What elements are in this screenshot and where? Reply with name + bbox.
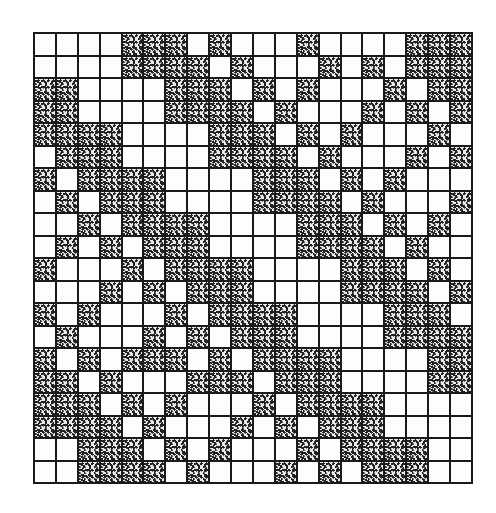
empty-cell <box>407 372 427 393</box>
empty-cell <box>451 237 471 258</box>
empty-cell <box>144 259 164 280</box>
empty-cell <box>451 304 471 325</box>
stippled-cell <box>385 282 405 303</box>
empty-cell <box>363 147 383 168</box>
stippled-cell <box>342 237 362 258</box>
stippled-cell <box>451 57 471 78</box>
empty-cell <box>451 214 471 235</box>
stippled-cell <box>144 237 164 258</box>
empty-cell <box>57 259 77 280</box>
empty-cell <box>254 462 274 483</box>
stippled-cell <box>429 214 449 235</box>
stippled-cell <box>363 237 383 258</box>
empty-cell <box>298 327 318 348</box>
stippled-cell <box>210 147 230 168</box>
stippled-cell <box>232 259 252 280</box>
stippled-cell <box>144 417 164 438</box>
empty-cell <box>57 439 77 460</box>
empty-cell <box>407 417 427 438</box>
empty-cell <box>79 57 99 78</box>
empty-cell <box>188 439 208 460</box>
stippled-cell <box>451 282 471 303</box>
stippled-cell <box>166 259 186 280</box>
stippled-cell <box>429 259 449 280</box>
stippled-cell <box>254 327 274 348</box>
stippled-cell <box>276 417 296 438</box>
stippled-cell <box>210 79 230 100</box>
empty-cell <box>298 147 318 168</box>
stippled-cell <box>166 237 186 258</box>
stippled-cell <box>79 147 99 168</box>
empty-cell <box>320 79 340 100</box>
empty-cell <box>342 349 362 370</box>
stippled-cell <box>320 147 340 168</box>
stippled-cell <box>407 34 427 55</box>
empty-cell <box>123 124 143 145</box>
stippled-cell <box>123 57 143 78</box>
empty-cell <box>363 214 383 235</box>
stippled-cell <box>298 79 318 100</box>
stippled-cell <box>429 372 449 393</box>
empty-cell <box>123 327 143 348</box>
empty-cell <box>363 169 383 190</box>
stippled-cell <box>451 192 471 213</box>
stippled-cell <box>144 462 164 483</box>
binary-pattern-grid <box>33 32 473 484</box>
empty-cell <box>35 34 55 55</box>
empty-cell <box>429 394 449 415</box>
empty-cell <box>123 102 143 123</box>
stippled-cell <box>232 147 252 168</box>
stippled-cell <box>276 169 296 190</box>
stippled-cell <box>342 282 362 303</box>
empty-cell <box>79 192 99 213</box>
stippled-cell <box>188 214 208 235</box>
empty-cell <box>101 57 121 78</box>
stippled-cell <box>407 102 427 123</box>
empty-cell <box>298 102 318 123</box>
empty-cell <box>429 282 449 303</box>
stippled-cell <box>407 462 427 483</box>
stippled-cell <box>166 439 186 460</box>
empty-cell <box>79 282 99 303</box>
empty-cell <box>232 192 252 213</box>
empty-cell <box>407 169 427 190</box>
empty-cell <box>276 237 296 258</box>
stippled-cell <box>298 237 318 258</box>
stippled-cell <box>407 439 427 460</box>
empty-cell <box>385 192 405 213</box>
stippled-cell <box>407 147 427 168</box>
empty-cell <box>342 462 362 483</box>
empty-cell <box>210 192 230 213</box>
empty-cell <box>232 237 252 258</box>
empty-cell <box>35 462 55 483</box>
empty-cell <box>298 304 318 325</box>
empty-cell <box>232 462 252 483</box>
stippled-cell <box>385 327 405 348</box>
stippled-cell <box>101 192 121 213</box>
empty-cell <box>385 394 405 415</box>
empty-cell <box>363 304 383 325</box>
empty-cell <box>188 417 208 438</box>
empty-cell <box>451 394 471 415</box>
empty-cell <box>254 282 274 303</box>
stippled-cell <box>101 282 121 303</box>
stippled-cell <box>210 304 230 325</box>
empty-cell <box>385 102 405 123</box>
stippled-cell <box>451 372 471 393</box>
stippled-cell <box>232 304 252 325</box>
stippled-cell <box>35 372 55 393</box>
stippled-cell <box>429 34 449 55</box>
stippled-cell <box>101 462 121 483</box>
stippled-cell <box>429 57 449 78</box>
empty-cell <box>385 417 405 438</box>
empty-cell <box>210 417 230 438</box>
stippled-cell <box>254 147 274 168</box>
stippled-cell <box>166 304 186 325</box>
stippled-cell <box>298 192 318 213</box>
empty-cell <box>188 349 208 370</box>
empty-cell <box>79 237 99 258</box>
stippled-cell <box>320 57 340 78</box>
empty-cell <box>342 304 362 325</box>
empty-cell <box>188 147 208 168</box>
empty-cell <box>166 372 186 393</box>
